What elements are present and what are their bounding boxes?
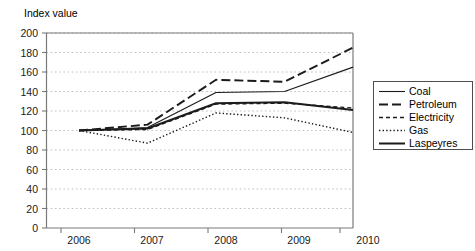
chart-legend: Coal Petroleum Electricity Gas Laspeyres — [374, 82, 473, 150]
y-tick-label-200: 200 — [20, 27, 38, 39]
legend-label-petroleum: Petroleum — [409, 98, 457, 110]
x-tick-label-2009: 2009 — [287, 234, 311, 246]
chart-figure: Index value — [0, 0, 475, 251]
y-tick-label-180: 180 — [20, 47, 38, 59]
y-tick-label-60: 60 — [26, 164, 38, 176]
y-tick-label-100: 100 — [20, 125, 38, 137]
x-tick-marks — [61, 228, 340, 233]
series-layer — [79, 48, 353, 144]
y-tick-label-0: 0 — [32, 222, 38, 234]
legend-label-laspeyres: Laspeyres — [409, 137, 457, 149]
y-tick-label-80: 80 — [26, 144, 38, 156]
y-tick-marks — [42, 33, 47, 228]
y-tick-label-160: 160 — [20, 66, 38, 78]
y-axis-title: Index value — [24, 7, 78, 19]
y-tick-label-20: 20 — [26, 203, 38, 215]
x-tick-label-2007: 2007 — [140, 234, 164, 246]
line-chart: Index value — [0, 0, 475, 251]
x-tick-label-2006: 2006 — [67, 234, 91, 246]
x-tick-labels: 2006 2007 2008 2009 2010 — [67, 234, 380, 246]
x-tick-label-2008: 2008 — [214, 234, 238, 246]
series-line-coal — [79, 67, 353, 130]
legend-label-coal: Coal — [409, 85, 431, 97]
y-tick-label-40: 40 — [26, 183, 38, 195]
legend-label-electricity: Electricity — [409, 111, 455, 123]
y-tick-label-120: 120 — [20, 105, 38, 117]
legend-label-gas: Gas — [409, 124, 428, 136]
series-line-petroleum — [79, 48, 353, 131]
x-tick-label-2010: 2010 — [356, 234, 380, 246]
y-tick-labels: 200 180 160 140 120 100 80 60 40 20 0 — [20, 27, 38, 234]
y-tick-label-140: 140 — [20, 86, 38, 98]
series-line-gas — [79, 113, 353, 143]
